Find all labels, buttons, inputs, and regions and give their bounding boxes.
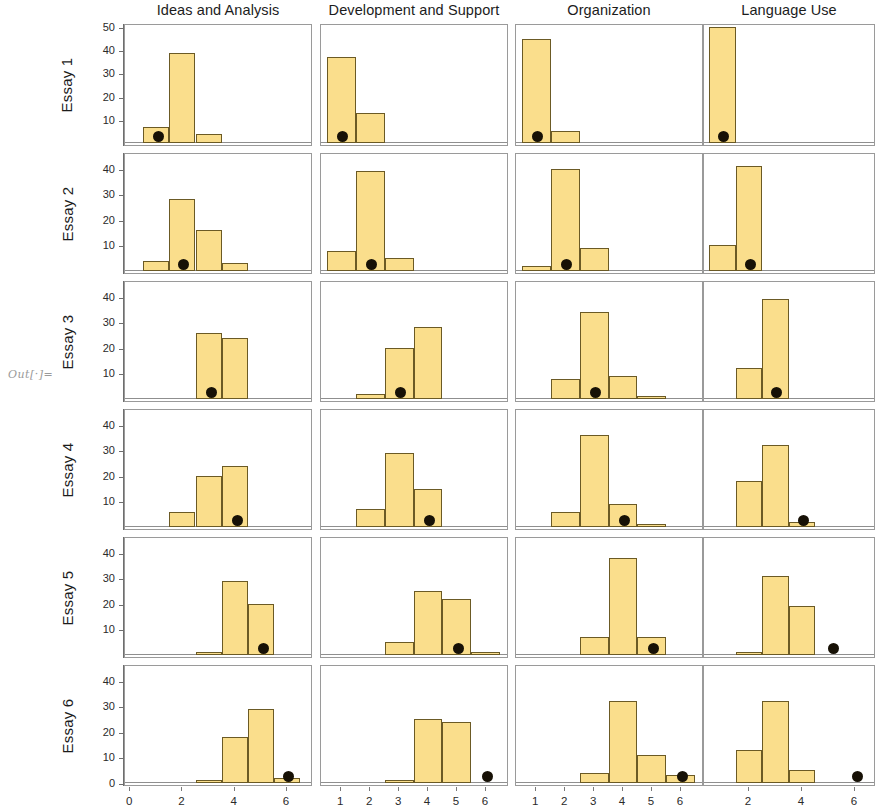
bar	[196, 780, 222, 783]
bar	[789, 770, 815, 783]
bar	[609, 558, 638, 655]
y-tick-label: 10	[84, 496, 115, 507]
y-tick	[119, 246, 123, 247]
bar	[385, 642, 414, 655]
bar	[709, 27, 735, 143]
bar	[609, 376, 638, 399]
y-axis	[123, 153, 124, 274]
y-tick	[119, 298, 123, 299]
y-tick	[119, 323, 123, 324]
y-tick-label: 30	[84, 445, 115, 456]
y-tick-label: 50	[84, 22, 115, 33]
bar	[385, 453, 414, 527]
y-tick	[119, 477, 123, 478]
mean-marker-dot	[677, 771, 688, 782]
bar	[196, 134, 222, 143]
bar	[356, 171, 385, 271]
y-axis	[123, 281, 124, 402]
y-tick	[119, 554, 123, 555]
bar	[222, 263, 248, 271]
panel-essay-5-language-use	[703, 537, 875, 658]
x-tick	[535, 787, 536, 791]
y-tick	[119, 707, 123, 708]
plot-area	[125, 154, 311, 273]
y-tick	[119, 349, 123, 350]
x-tick-label: 2	[733, 796, 763, 808]
plot-area	[516, 410, 702, 529]
y-axis	[123, 537, 124, 658]
plot-area	[704, 25, 874, 145]
x-tick	[748, 787, 749, 791]
mean-marker-dot	[258, 643, 269, 654]
plot-area	[321, 666, 507, 785]
y-tick-label: 20	[84, 727, 115, 738]
y-tick	[119, 605, 123, 606]
bar	[222, 737, 248, 783]
bar	[551, 131, 580, 143]
plot-area	[704, 282, 874, 401]
bar	[385, 780, 414, 783]
bar	[762, 576, 788, 655]
bar	[580, 435, 609, 527]
y-tick	[119, 502, 123, 503]
x-tick-label: 6	[271, 796, 301, 808]
x-tick-label: 2	[549, 796, 579, 808]
bar	[736, 368, 762, 399]
x-tick-label: 4	[219, 796, 249, 808]
bar	[609, 701, 638, 783]
mean-marker-dot	[482, 771, 493, 782]
bar	[736, 652, 762, 655]
bar	[356, 509, 385, 527]
x-tick	[181, 787, 182, 791]
y-tick-label: 20	[84, 599, 115, 610]
mean-marker-dot	[232, 515, 243, 526]
y-tick-label: 30	[84, 317, 115, 328]
panel-essay-5-organization	[515, 537, 703, 658]
y-tick-label: 10	[84, 115, 115, 126]
column-title-ideas-and-analysis: Ideas and Analysis	[124, 2, 312, 18]
x-tick	[854, 787, 855, 791]
panel-essay-3-language-use	[703, 281, 875, 402]
x-tick	[398, 787, 399, 791]
bar	[414, 591, 443, 655]
plot-area	[321, 25, 507, 145]
bar	[169, 512, 195, 527]
plot-area	[516, 282, 702, 401]
panel-essay-5-development-and-support	[320, 537, 508, 658]
y-tick-label: 20	[84, 471, 115, 482]
panel-essay-3-ideas-and-analysis	[124, 281, 312, 402]
y-tick	[119, 758, 123, 759]
y-tick-label: 40	[84, 45, 115, 56]
baseline	[704, 398, 874, 399]
bar	[522, 266, 551, 271]
y-tick	[119, 374, 123, 375]
mean-marker-dot	[206, 387, 217, 398]
plot-area	[321, 538, 507, 657]
plot-area	[321, 282, 507, 401]
bar	[196, 476, 222, 527]
mean-marker-dot	[590, 387, 601, 398]
panel-essay-1-development-and-support	[320, 24, 508, 146]
plot-area	[516, 538, 702, 657]
x-tick-label: 6	[470, 796, 500, 808]
panel-essay-1-organization	[515, 24, 703, 146]
row-label-essay-3: Essay 3	[58, 281, 76, 402]
row-label-essay-6: Essay 6	[58, 665, 76, 786]
bar	[169, 53, 195, 143]
plot-area	[704, 410, 874, 529]
x-tick	[427, 787, 428, 791]
x-tick-label: 5	[636, 796, 666, 808]
bar	[551, 169, 580, 271]
y-tick-label: 40	[84, 676, 115, 687]
y-tick	[119, 579, 123, 580]
x-tick-label: 2	[166, 796, 196, 808]
y-tick	[119, 426, 123, 427]
plot-area	[516, 154, 702, 273]
plot-area	[516, 666, 702, 785]
mean-marker-dot	[798, 515, 809, 526]
x-tick-label: 2	[354, 796, 384, 808]
panel-essay-3-organization	[515, 281, 703, 402]
x-tick-label: 4	[412, 796, 442, 808]
y-tick-label: 10	[84, 752, 115, 763]
panel-essay-6-organization	[515, 665, 703, 786]
